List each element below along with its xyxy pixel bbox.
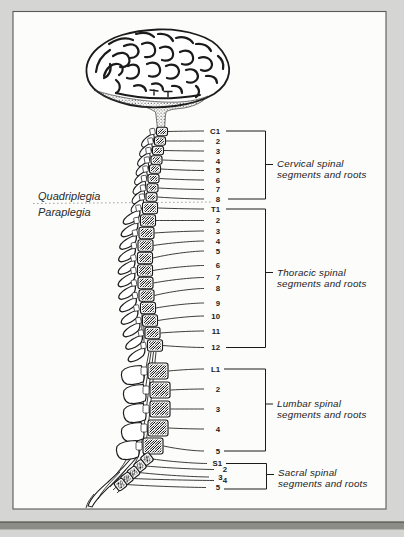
lumbar-disc-5: [136, 442, 142, 450]
cervical-leader-line-1: [168, 131, 204, 132]
thoracic-disc-3: [132, 230, 138, 237]
thoracic-segment-texture-1: [144, 204, 156, 212]
cervical-segment-texture-2: [156, 138, 164, 143]
cervical-caption-line2: segments and roots: [277, 169, 367, 180]
thoracic-caption-line2: segments and roots: [277, 278, 367, 289]
segment-label-cervical-2: 2: [216, 137, 221, 146]
segment-label-thoracic-10: 10: [211, 312, 220, 321]
thoracic-caption-line1: Thoracic spinal: [277, 267, 347, 278]
segment-label-cervical-4: 4: [216, 157, 221, 166]
cervical-disc-6: [141, 175, 147, 182]
segment-label-cervical-8: 8: [216, 195, 221, 204]
thoracic-disc-12: [141, 342, 147, 349]
cervical-caption-line1: Cervical spinal: [277, 158, 344, 169]
segment-label-cervical-3: 3: [216, 147, 221, 156]
bottom-accent-bar-edge: [0, 522, 404, 523]
cervical-segment-texture-3: [154, 148, 162, 153]
segment-label-thoracic-7: 7: [216, 273, 220, 282]
lumbar-caption-line2: segments and roots: [277, 409, 367, 420]
segment-label-thoracic-12: 12: [211, 343, 220, 352]
quadriplegia-label: Quadriplegia: [38, 190, 100, 202]
segment-label-thoracic-8: 8: [216, 284, 221, 293]
lumbar-segment-texture-3: [152, 403, 169, 416]
thoracic-disc-9: [134, 305, 140, 312]
thoracic-segment-texture-2: [142, 216, 154, 224]
thoracic-segment-texture-8: [141, 291, 153, 299]
thoracic-segment-texture-4: [140, 241, 152, 249]
thoracic-disc-7: [131, 280, 137, 287]
thoracic-segment-texture-5: [139, 254, 151, 262]
segment-label-lumbar-2: 2: [216, 385, 221, 394]
thoracic-disc-11: [138, 330, 144, 337]
cervical-segment-texture-5: [151, 166, 159, 171]
lumbar-segment-texture-5: [145, 440, 162, 453]
thoracic-disc-6: [131, 267, 137, 274]
cervical-disc-3: [146, 147, 152, 154]
thoracic-disc-5: [131, 255, 137, 262]
segment-label-sacral-4: 4: [223, 476, 228, 485]
paraplegia-label: Paraplegia: [38, 206, 91, 218]
lumbar-segment-texture-1: [150, 365, 167, 378]
segment-label-lumbar-4: 4: [216, 425, 221, 434]
thoracic-segment-texture-9: [142, 304, 154, 312]
segment-label-lumbar-3: 3: [216, 405, 221, 414]
thoracic-disc-8: [132, 292, 138, 299]
cervical-leader-line-3: [164, 151, 204, 152]
segment-label-lumbar-1: L1: [211, 365, 221, 374]
cervical-segment-texture-7: [149, 185, 157, 190]
thoracic-disc-4: [131, 242, 137, 249]
segment-label-thoracic-6: 6: [216, 261, 221, 270]
cervical-disc-1: [150, 128, 156, 135]
lumbar-disc-2: [143, 386, 149, 394]
cervical-disc-2: [148, 138, 154, 145]
thoracic-segment-texture-11: [147, 329, 159, 337]
segment-label-thoracic-1: T1: [211, 205, 221, 214]
cervical-disc-8: [139, 194, 145, 201]
lumbar-segment-texture-4: [150, 422, 167, 435]
segment-label-cervical-5: 5: [216, 166, 221, 175]
cervical-disc-4: [144, 157, 150, 164]
lumbar-disc-1: [141, 367, 147, 375]
cervical-segment-texture-8: [148, 194, 156, 199]
segment-label-cervical-1: C1: [210, 127, 221, 136]
segment-label-thoracic-4: 4: [216, 237, 221, 246]
thoracic-segment-texture-12: [149, 341, 161, 349]
lumbar-caption-line1: Lumbar spinal: [277, 398, 342, 409]
segment-label-sacral-2: 2: [223, 465, 228, 474]
segment-label-sacral-5: 5: [216, 483, 221, 492]
thoracic-segment-texture-10: [144, 316, 156, 324]
segment-label-lumbar-5: 5: [216, 447, 221, 456]
segment-label-thoracic-5: 5: [216, 247, 221, 256]
segment-label-sacral-1: S1: [212, 459, 222, 468]
thoracic-disc-2: [134, 217, 140, 224]
thoracic-disc-10: [136, 317, 142, 324]
thoracic-segment-texture-7: [140, 279, 152, 287]
cervical-disc-5: [143, 166, 149, 173]
cervical-segment-texture-6: [150, 176, 158, 181]
lumbar-disc-3: [143, 405, 149, 413]
thoracic-segment-texture-3: [141, 229, 153, 237]
spinal-segments-figure: C12345678Cervical spinalsegments and roo…: [0, 0, 404, 537]
lumbar-segment-texture-2: [152, 384, 169, 397]
cervical-segment-texture-1: [158, 129, 166, 134]
sacral-caption-line2: segments and roots: [278, 478, 368, 489]
segment-label-cervical-7: 7: [216, 185, 220, 194]
thoracic-segment-texture-6: [139, 266, 151, 274]
segment-label-thoracic-3: 3: [216, 227, 221, 236]
cervical-disc-7: [140, 185, 146, 192]
segment-label-thoracic-11: 11: [212, 327, 221, 336]
segment-label-thoracic-9: 9: [216, 299, 221, 308]
segment-label-cervical-6: 6: [216, 176, 221, 185]
lumbar-disc-4: [141, 424, 147, 432]
sacral-caption-line1: Sacral spinal: [278, 467, 337, 478]
segment-label-thoracic-2: 2: [216, 216, 221, 225]
cervical-segment-texture-4: [153, 157, 161, 162]
thoracic-disc-1: [136, 205, 142, 212]
